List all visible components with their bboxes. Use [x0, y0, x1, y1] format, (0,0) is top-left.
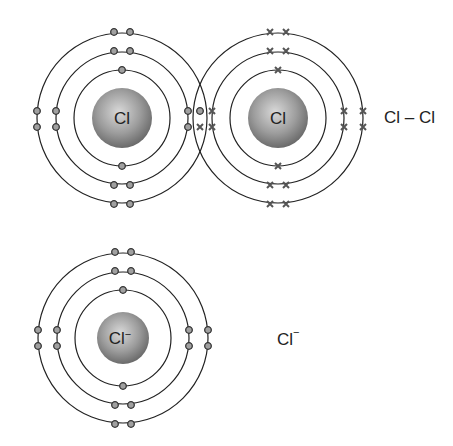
- electron-shell-diagram: Cl Cl Cl−: [0, 0, 453, 446]
- molecule-formula-label: Cl – Cl: [384, 108, 435, 128]
- atom-cl-right: Cl: [193, 29, 366, 207]
- ion-cl-minus: Cl−: [35, 249, 212, 428]
- nucleus-label: Cl: [270, 109, 286, 128]
- ion-formula-label: Cl−: [277, 328, 300, 350]
- atom-cl-left: Cl: [34, 29, 207, 208]
- nucleus-label: Cl: [114, 109, 130, 128]
- diagram-stage: Cl Cl Cl−: [0, 0, 453, 446]
